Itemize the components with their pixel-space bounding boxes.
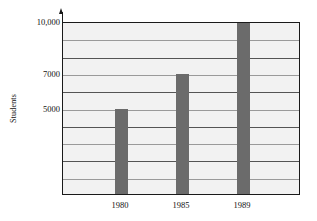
- bar-1980: [115, 109, 128, 195]
- x-tick-label-1985: 1985: [161, 200, 201, 210]
- y-tick-label-5000: 5000: [14, 104, 60, 114]
- gridline-8000: [63, 58, 299, 59]
- y-tick-label-10000: 10,000: [14, 17, 60, 27]
- plot-area: [62, 22, 300, 195]
- bar-1989: [237, 23, 250, 194]
- x-tick-label-1989: 1989: [222, 200, 262, 210]
- bar-chart: Students 10,000 7000 5000 1980 1985 1989: [0, 0, 317, 221]
- y-tick-label-7000: 7000: [14, 69, 60, 79]
- x-tick-label-1980: 1980: [100, 200, 140, 210]
- bar-1985: [176, 74, 189, 194]
- gridline-9000: [63, 40, 299, 41]
